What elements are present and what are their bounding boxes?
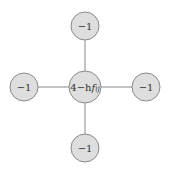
node-center: 4−hfij [69,71,101,103]
node-bottom-label: −1 [78,143,93,154]
stencil-diagram: −1 −1 −1 −1 4−hfij [0,0,172,173]
center-label-main: 4−h [70,82,92,93]
node-left: −1 [10,73,38,101]
node-left-label: −1 [17,82,32,93]
node-right: −1 [132,73,160,101]
node-bottom: −1 [71,134,99,162]
node-top-label: −1 [78,21,93,32]
node-top: −1 [71,12,99,40]
node-right-label: −1 [139,82,154,93]
